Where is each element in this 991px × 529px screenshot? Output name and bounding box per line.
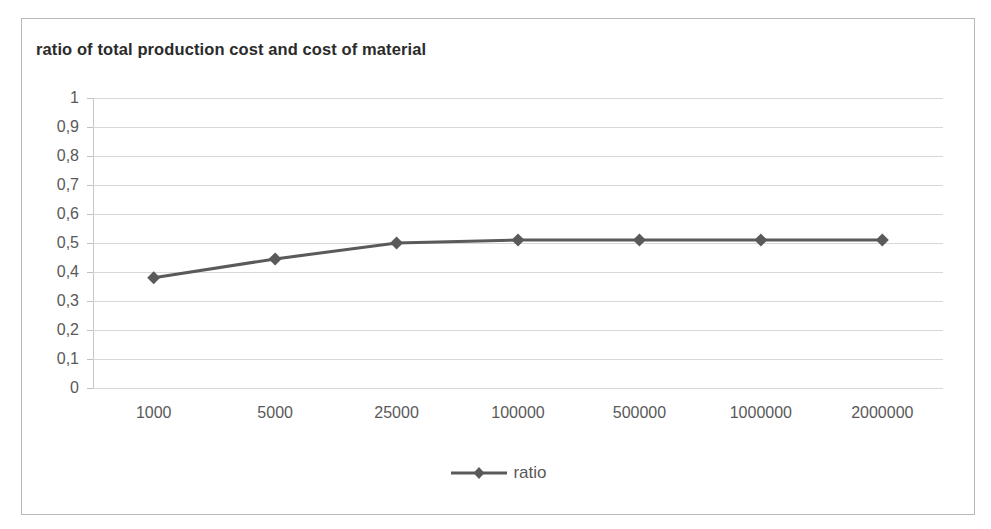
x-axis-tick-label: 100000: [491, 404, 544, 422]
y-axis-tick-label: 0: [70, 379, 79, 397]
legend-line-marker-icon: [451, 466, 507, 480]
y-axis-tick: [87, 330, 93, 331]
y-axis-tick: [87, 388, 93, 389]
y-axis-tick: [87, 301, 93, 302]
gridline: [93, 185, 943, 186]
x-axis-tick-label: 2000000: [851, 404, 913, 422]
gridline: [93, 214, 943, 215]
gridline: [93, 388, 943, 389]
y-axis-tick: [87, 127, 93, 128]
y-axis-tick: [87, 243, 93, 244]
y-axis-tick-label: 0,9: [57, 118, 79, 136]
gridline: [93, 98, 943, 99]
y-axis-tick-label: 0,3: [57, 292, 79, 310]
x-axis-tick-label: 500000: [613, 404, 666, 422]
gridline: [93, 272, 943, 273]
y-axis-tick: [87, 359, 93, 360]
x-axis-tick-label: 1000: [136, 404, 172, 422]
y-axis-tick: [87, 185, 93, 186]
y-axis-tick-label: 0,1: [57, 350, 79, 368]
x-axis-tick-label: 25000: [374, 404, 419, 422]
y-axis-tick: [87, 272, 93, 273]
y-axis-tick: [87, 214, 93, 215]
x-axis-tick-label: 1000000: [730, 404, 792, 422]
gridline: [93, 330, 943, 331]
gridline: [93, 243, 943, 244]
chart-title: ratio of total production cost and cost …: [36, 40, 426, 59]
legend-label-ratio: ratio: [513, 463, 546, 483]
y-axis-tick: [87, 156, 93, 157]
chart-container: ratio of total production cost and cost …: [21, 18, 975, 515]
x-axis-labels: 100050002500010000050000010000002000000: [93, 404, 943, 434]
y-axis-tick-label: 0,7: [57, 176, 79, 194]
y-axis-tick-label: 0,6: [57, 205, 79, 223]
y-axis-tick-label: 0,2: [57, 321, 79, 339]
legend-entry-ratio: ratio: [451, 463, 546, 483]
y-axis-tick-label: 0,5: [57, 234, 79, 252]
chart-legend: ratio: [22, 463, 976, 484]
x-axis-tick-label: 5000: [257, 404, 293, 422]
gridline: [93, 156, 943, 157]
gridline: [93, 301, 943, 302]
y-axis-tick: [87, 98, 93, 99]
y-axis-tick-label: 1: [70, 89, 79, 107]
y-axis-tick-label: 0,8: [57, 147, 79, 165]
y-axis-labels: 00,10,20,30,40,50,60,70,80,91: [22, 19, 79, 516]
plot-area: [93, 98, 943, 388]
y-axis-tick-label: 0,4: [57, 263, 79, 281]
gridline: [93, 127, 943, 128]
gridline: [93, 359, 943, 360]
